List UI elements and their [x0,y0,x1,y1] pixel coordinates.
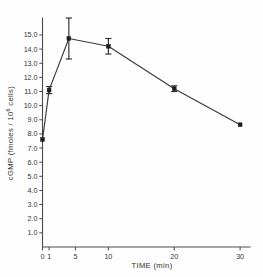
y-tick-label-3.0: 3.0 [28,200,38,209]
x-tick-label-0: 0 [41,252,45,261]
x-tick-label-10: 10 [104,252,112,261]
x-tick-label-20: 20 [170,252,178,261]
y-tick-label-14.0: 14.0 [24,45,38,54]
x-tick-label-5: 5 [73,252,77,261]
y-axis-title-text: cGMP (fmoles / 106 cells) [5,86,15,180]
y-axis-tick-labels: 1.02.03.04.05.06.07.08.09.010.011.012.01… [24,30,38,237]
y-axis-title: cGMP (fmoles / 106 cells) [5,86,15,180]
data-point-t1 [47,88,51,92]
axes [43,18,251,247]
error-bars [46,18,177,94]
data-line-cgmp [43,39,241,140]
y-tick-label-6.0: 6.0 [28,158,38,167]
y-tick-label-1.0: 1.0 [28,228,38,237]
data-point-t4 [67,37,71,41]
data-point-t0 [41,138,45,142]
data-series-group [41,18,242,141]
y-tick-label-5.0: 5.0 [28,172,38,181]
x-axis-tick-labels: 015102030 [41,252,245,261]
y-tick-label-9.0: 9.0 [28,115,38,124]
y-tick-label-4.0: 4.0 [28,186,38,195]
data-point-t10 [106,44,110,48]
y-tick-label-11.0: 11.0 [24,87,37,96]
y-tick-label-15.0: 15.0 [24,30,38,39]
x-tick-label-30: 30 [236,252,244,261]
y-axis-title-main: cGMP (fmoles / 10 [6,111,15,180]
cgmp-time-course-chart: 1.02.03.04.05.06.07.08.09.010.011.012.01… [0,0,263,277]
x-tick-label-1: 1 [47,252,51,261]
y-tick-label-8.0: 8.0 [28,129,38,138]
y-tick-label-12.0: 12.0 [24,73,38,82]
x-axis-title: TIME (min) [131,261,172,270]
y-tick-label-7.0: 7.0 [28,144,38,153]
y-axis-title-tail: cells) [6,86,15,108]
data-point-t30 [238,123,242,127]
y-tick-label-10.0: 10.0 [24,101,38,110]
y-tick-label-13.0: 13.0 [24,59,38,68]
figure-container: 1.02.03.04.05.06.07.08.09.010.011.012.01… [0,0,263,277]
y-tick-label-2.0: 2.0 [28,214,38,223]
data-point-t20 [172,87,176,91]
data-markers [41,37,242,142]
